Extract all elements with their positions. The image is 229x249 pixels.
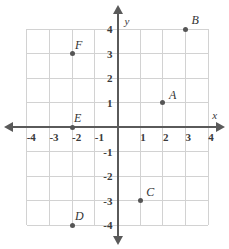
data-point-label-c: C: [146, 186, 154, 198]
data-point-a: [160, 100, 165, 105]
data-point-label-a: A: [169, 89, 176, 101]
data-point-f: [70, 51, 75, 56]
data-point-d: [70, 223, 75, 228]
data-point-c: [138, 198, 143, 203]
coordinate-plane-figure: -4-3-2-112344321-1-2-3-4 x y ABCDEF: [0, 0, 229, 249]
data-point-e: [70, 125, 75, 130]
data-point-label-f: F: [75, 39, 82, 51]
data-point-label-e: E: [74, 112, 81, 124]
data-point-label-d: D: [75, 210, 84, 222]
data-point-b: [183, 27, 188, 32]
data-point-label-b: B: [192, 14, 199, 26]
plotted-points: ABCDEF: [0, 0, 229, 249]
